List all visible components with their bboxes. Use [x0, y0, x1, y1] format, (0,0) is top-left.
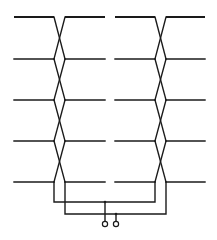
bus-a: [54, 182, 155, 202]
conductor-rows: [14, 17, 205, 182]
terminal-a-circle-icon: [102, 221, 107, 226]
terminal-b-circle-icon: [113, 221, 118, 226]
terminal-b-junction-dot: [115, 213, 118, 216]
bus-b: [65, 182, 166, 214]
terminal-a-junction-dot: [104, 201, 107, 204]
schematic-diagram: [0, 0, 217, 240]
bus-lines: [54, 182, 166, 214]
diagram-svg: [0, 0, 217, 240]
